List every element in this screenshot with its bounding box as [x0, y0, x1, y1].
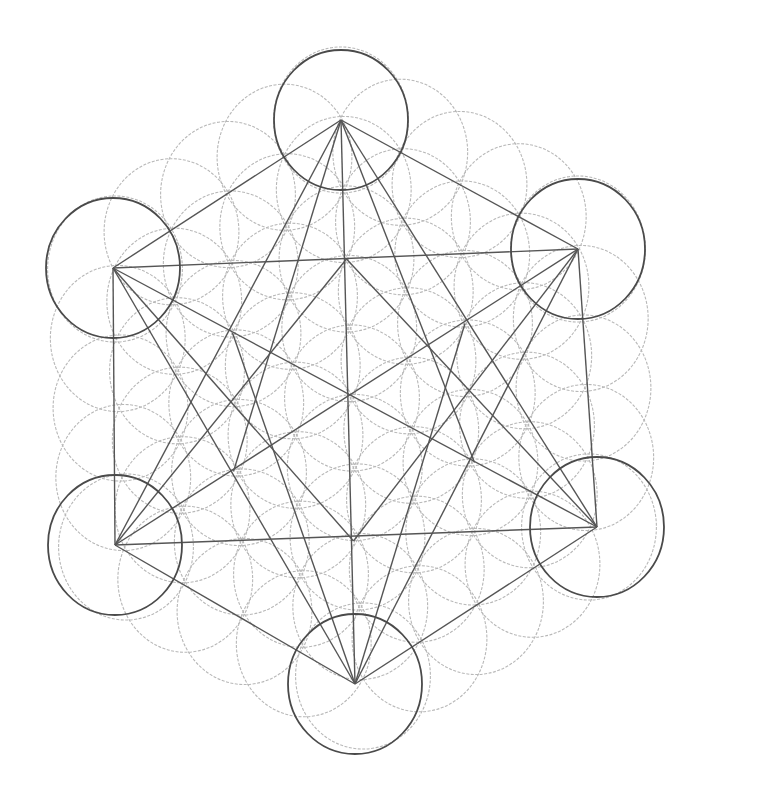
flower-of-life-circles: [48, 47, 657, 749]
metatrons-cube-drawing: [0, 0, 764, 799]
